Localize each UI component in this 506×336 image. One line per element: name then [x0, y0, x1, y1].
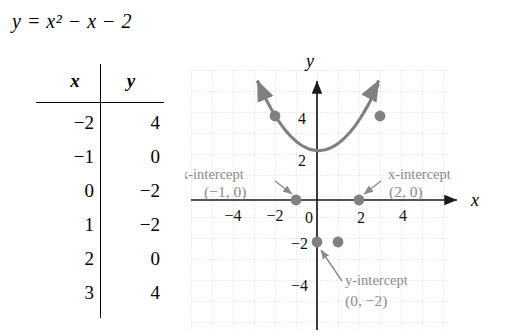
- x-tick-minus4: −4: [224, 207, 241, 224]
- table-cell-y-5: 4: [108, 282, 160, 304]
- figure-root: y = x² − x − 2 x y −2 4 −1 0 0 −2 1 −2 2…: [0, 0, 506, 336]
- y-tick-4: 4: [298, 110, 306, 127]
- x-tick-2: 2: [357, 209, 365, 226]
- x-intercept-right-title: x-intercept: [388, 166, 451, 182]
- x-intercept-left-value: (−1, 0): [204, 183, 246, 201]
- point-2-0: [354, 195, 365, 206]
- table-header-x: x: [52, 70, 98, 92]
- x-tick-4: 4: [399, 207, 407, 224]
- equation-label: y = x² − x − 2: [12, 10, 132, 33]
- y-tick-2: 2: [298, 152, 306, 169]
- y-intercept-value: (0, −2): [345, 292, 387, 310]
- table-header-y: y: [108, 70, 154, 92]
- parabola-graph: x y −4 −2 0 2 4 4 2 −2 −4: [185, 45, 506, 336]
- table-cell-y-3: −2: [108, 214, 160, 236]
- point-3-4: [375, 111, 386, 122]
- x-intercept-right-value: (2, 0): [389, 183, 423, 201]
- point-1-neg2: [333, 237, 344, 248]
- point-neg1-0: [291, 195, 302, 206]
- table-horizontal-rule: [36, 102, 164, 103]
- table-cell-y-1: 0: [108, 146, 160, 168]
- y-intercept-title: y-intercept: [345, 272, 408, 288]
- point-neg2-4: [270, 111, 281, 122]
- table-cell-x-1: −1: [42, 146, 94, 168]
- x-axis-label: x: [470, 190, 479, 210]
- x-intercept-left-title: x-intercept: [185, 166, 244, 182]
- x-tick-minus2: −2: [266, 207, 283, 224]
- x-tick-zero: 0: [305, 209, 313, 226]
- table-cell-x-5: 3: [42, 282, 94, 304]
- value-table: x y −2 4 −1 0 0 −2 1 −2 2 0 3 4: [30, 62, 170, 320]
- table-cell-x-3: 1: [42, 214, 94, 236]
- table-cell-x-0: −2: [42, 112, 94, 134]
- point-0-neg2: [312, 237, 323, 248]
- table-cell-y-0: 4: [108, 112, 160, 134]
- y-tick-minus2: −2: [291, 235, 308, 252]
- table-cell-y-4: 0: [108, 248, 160, 270]
- y-axis-label: y: [304, 51, 314, 71]
- table-cell-x-2: 0: [42, 180, 94, 202]
- y-tick-minus4: −4: [291, 277, 308, 294]
- table-cell-y-2: −2: [108, 180, 160, 202]
- table-cell-x-4: 2: [42, 248, 94, 270]
